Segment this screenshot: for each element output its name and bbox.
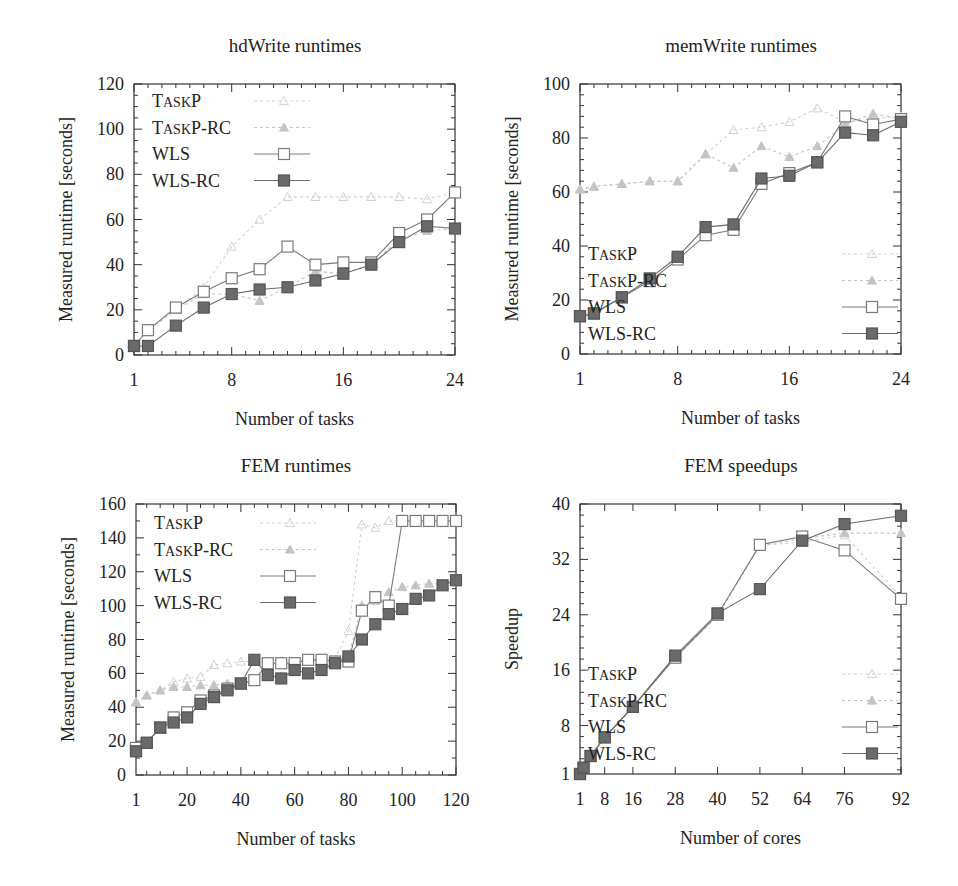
- y-tick-label: 24: [552, 605, 570, 625]
- x-tick-label: 100: [389, 790, 416, 810]
- filled-square-marker: [797, 535, 808, 546]
- chart-title: FEM speedups: [684, 455, 797, 476]
- filled-triangle-marker: [869, 109, 878, 117]
- legend-label: TASKP: [154, 513, 203, 533]
- open-square-marker: [226, 273, 237, 284]
- open-square-marker: [282, 241, 293, 252]
- chart-canvas: hdWrite runtimes181624020406080100120Num…: [0, 0, 958, 886]
- legend-item-wls: WLS: [588, 297, 898, 317]
- open-square-marker: [262, 658, 273, 669]
- filled-square-marker: [338, 268, 349, 279]
- open-triangle-marker: [223, 659, 232, 667]
- x-tick-label: 52: [751, 789, 769, 809]
- x-tick-label: 40: [232, 790, 250, 810]
- legend-item-wls: WLS: [152, 144, 310, 164]
- filled-square-marker: [142, 340, 153, 351]
- open-square-marker: [840, 111, 851, 122]
- filled-square-marker: [812, 157, 823, 168]
- filled-square-marker: [226, 289, 237, 300]
- x-tick-label: 40: [709, 789, 727, 809]
- filled-square-marker: [356, 634, 367, 645]
- legend-label: TASKP: [588, 244, 637, 264]
- filled-square-marker: [578, 762, 589, 773]
- legend-label: WLS-RC: [154, 593, 222, 613]
- series-line: [134, 192, 455, 346]
- filled-square-marker: [141, 737, 152, 748]
- x-axis-label: Number of tasks: [235, 409, 354, 429]
- y-tick-label: 100: [99, 596, 126, 616]
- series-wls-rc: [575, 510, 907, 779]
- y-tick-label: 0: [115, 345, 124, 365]
- x-tick-label: 64: [793, 789, 811, 809]
- x-axis-label: Number of cores: [680, 828, 801, 848]
- y-tick-label: 80: [108, 630, 126, 650]
- open-square-marker: [437, 515, 448, 526]
- filled-triangle-marker: [617, 179, 626, 187]
- x-tick-label: 1: [130, 370, 139, 390]
- filled-triangle-marker: [183, 682, 192, 690]
- filled-square-marker: [712, 608, 723, 619]
- series-line: [580, 114, 901, 190]
- filled-square-marker: [370, 619, 381, 630]
- open-square-marker: [316, 654, 327, 665]
- filled-square-marker: [450, 223, 461, 234]
- filled-square-marker: [303, 668, 314, 679]
- filled-square-marker: [182, 712, 193, 723]
- filled-square-marker: [896, 510, 907, 521]
- y-tick-label: 8: [561, 716, 570, 736]
- filled-square-marker: [289, 664, 300, 675]
- legend: TASKPTASKP-RCWLSWLS-RC: [152, 91, 310, 191]
- filled-triangle-marker: [729, 163, 738, 171]
- series-wls: [575, 111, 907, 322]
- open-square-marker: [410, 515, 421, 526]
- figure: hdWrite runtimes181624020406080100120Num…: [0, 0, 958, 886]
- series-taskp: [576, 531, 906, 778]
- y-tick-label: 120: [97, 74, 124, 94]
- filled-square-marker: [670, 650, 681, 661]
- legend: TASKPTASKP-RCWLSWLS-RC: [154, 513, 316, 613]
- legend-label: TASKP: [152, 91, 201, 111]
- series-line: [580, 108, 901, 189]
- legend-item-taskp: TASKP: [152, 91, 310, 111]
- legend-label: WLS: [588, 297, 626, 317]
- filled-square-marker: [754, 584, 765, 595]
- x-axis-label: Number of tasks: [681, 408, 800, 428]
- legend-label: WLS-RC: [588, 744, 656, 764]
- y-tick-label: 60: [106, 210, 124, 230]
- open-square-marker: [867, 302, 878, 313]
- y-tick-label: 60: [108, 663, 126, 683]
- chart-panel-memwrite: memWrite runtimes181624020406080100Numbe…: [502, 35, 910, 428]
- x-tick-label: 1: [132, 790, 141, 810]
- open-square-marker: [198, 286, 209, 297]
- x-tick-label: 8: [227, 370, 236, 390]
- filled-square-marker: [451, 575, 462, 586]
- filled-triangle-marker: [813, 142, 822, 150]
- y-tick-label: 100: [543, 74, 570, 94]
- filled-square-marker: [195, 698, 206, 709]
- x-tick-label: 28: [666, 789, 684, 809]
- legend-label: WLS: [154, 566, 192, 586]
- legend-item-taskp-rc: TASKP-RC: [588, 271, 898, 291]
- x-tick-label: 8: [673, 369, 682, 389]
- series-wls-rc: [129, 221, 461, 352]
- legend-item-wls: WLS: [588, 717, 898, 737]
- chart-title: FEM runtimes: [241, 455, 351, 476]
- legend-label: WLS: [152, 144, 190, 164]
- filled-square-marker: [756, 173, 767, 184]
- y-tick-label: 20: [106, 300, 124, 320]
- x-tick-label: 16: [624, 789, 642, 809]
- y-axis-label: Measured runtime [seconds]: [56, 117, 76, 322]
- filled-square-marker: [366, 259, 377, 270]
- y-tick-label: 60: [552, 182, 570, 202]
- open-square-marker: [424, 515, 435, 526]
- x-tick-label: 76: [836, 789, 854, 809]
- y-tick-label: 1: [561, 764, 570, 784]
- filled-square-marker: [285, 597, 296, 608]
- open-square-marker: [285, 571, 296, 582]
- open-square-marker: [397, 515, 408, 526]
- filled-square-marker: [131, 746, 142, 757]
- open-square-marker: [896, 593, 907, 604]
- series-line: [580, 535, 901, 774]
- legend: TASKPTASKP-RCWLSWLS-RC: [588, 664, 898, 764]
- y-tick-label: 80: [106, 164, 124, 184]
